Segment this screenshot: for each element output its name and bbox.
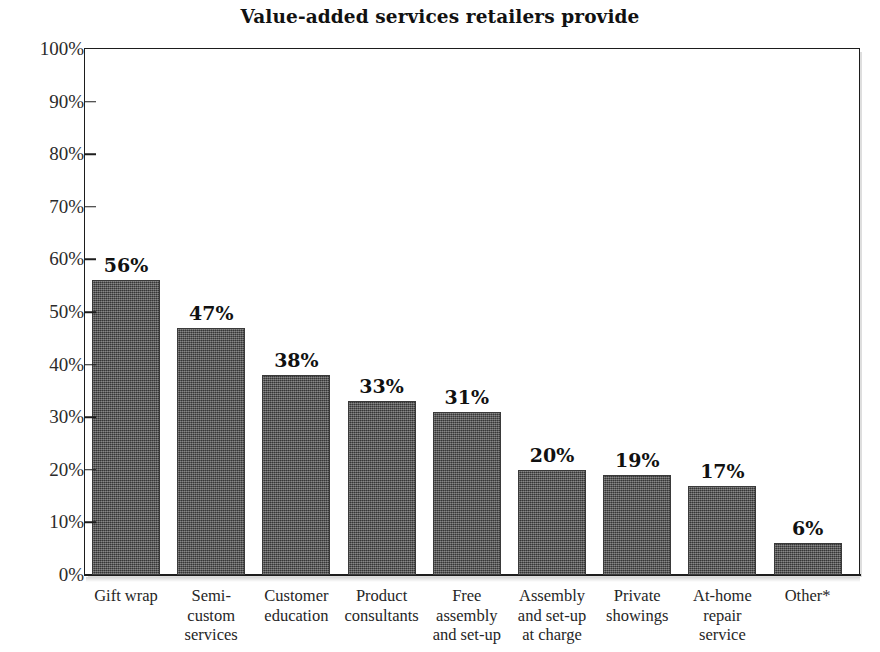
x-axis-category-label: Other*	[758, 586, 858, 606]
y-axis-tick-mark	[85, 311, 96, 313]
y-axis-tick-mark	[85, 259, 96, 261]
y-axis-tick-mark	[85, 469, 96, 471]
x-axis-labels: Gift wrapSemi- custom servicesCustomer e…	[0, 0, 880, 652]
y-axis-tick-mark	[85, 416, 96, 418]
y-axis-tick-mark	[85, 206, 96, 208]
y-axis-tick-mark	[85, 101, 96, 103]
y-axis-tick-mark	[85, 364, 96, 366]
y-axis-tick-mark	[85, 522, 96, 524]
y-axis-tick-mark	[85, 153, 96, 155]
